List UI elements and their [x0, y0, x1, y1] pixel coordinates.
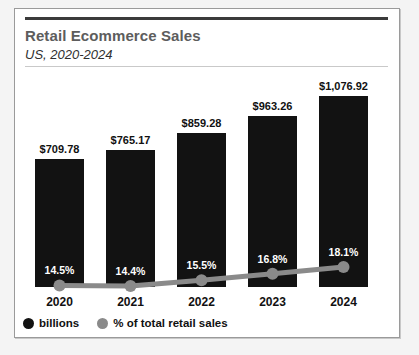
category-label: 2023: [259, 295, 286, 309]
bar-group: $765.1714.4%2021: [106, 87, 155, 339]
percent-value-label: 14.5%: [45, 264, 75, 276]
bar-value-label: $709.78: [40, 143, 80, 155]
bar-value-label: $1,076.92: [319, 80, 368, 92]
bar-value-label: $963.26: [253, 100, 293, 112]
category-label: 2024: [330, 295, 357, 309]
bar-group: $859.2815.5%2022: [177, 87, 226, 339]
chart-title: Retail Ecommerce Sales: [25, 27, 388, 44]
bar-value-label: $859.28: [182, 117, 222, 129]
chart-legend: billions % of total retail sales: [23, 317, 228, 329]
bar-group: $1,076.9218.1%2024: [319, 87, 368, 339]
circle-black-icon: [23, 318, 34, 329]
chart-subtitle: US, 2020-2024: [25, 47, 388, 62]
bar: [319, 96, 368, 287]
percent-value-label: 16.8%: [258, 253, 288, 265]
legend-label-percent: % of total retail sales: [113, 317, 227, 329]
chart-card: Retail Ecommerce Sales US, 2020-2024 $70…: [14, 8, 400, 338]
percent-value-label: 18.1%: [329, 246, 359, 258]
plot-area: $709.7814.5%2020$765.1714.4%2021$859.281…: [15, 87, 401, 339]
bar-group: $709.7814.5%2020: [35, 87, 84, 339]
bar-series: $709.7814.5%2020$765.1714.4%2021$859.281…: [15, 87, 401, 339]
legend-item-percent: % of total retail sales: [97, 317, 227, 329]
legend-item-billions: billions: [23, 317, 79, 329]
header-bottom-rule: [25, 66, 388, 67]
chart-header: Retail Ecommerce Sales US, 2020-2024: [25, 17, 388, 67]
circle-gray-icon: [97, 318, 108, 329]
percent-value-label: 14.4%: [116, 265, 146, 277]
category-label: 2021: [117, 295, 144, 309]
bar-group: $963.2616.8%2023: [248, 87, 297, 339]
bar-value-label: $765.17: [111, 134, 151, 146]
header-top-rule: [25, 17, 388, 20]
category-label: 2020: [46, 295, 73, 309]
chart-screenshot: Retail Ecommerce Sales US, 2020-2024 $70…: [0, 0, 419, 355]
legend-label-billions: billions: [39, 317, 79, 329]
category-label: 2022: [188, 295, 215, 309]
percent-value-label: 15.5%: [187, 259, 217, 271]
